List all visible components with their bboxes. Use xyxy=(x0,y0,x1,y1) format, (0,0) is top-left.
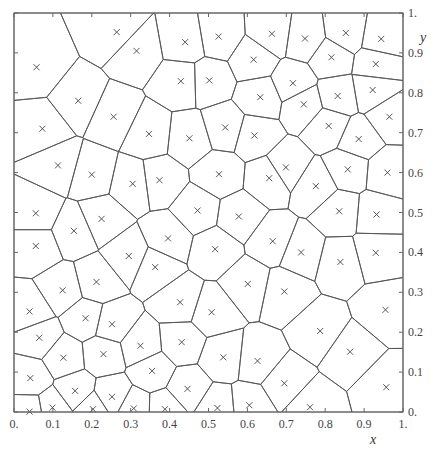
voronoi-cell xyxy=(243,155,291,210)
voronoi-cell xyxy=(39,384,73,412)
y-tick-label: 1. xyxy=(408,6,417,20)
seed-marker-icon xyxy=(162,406,168,412)
seed-marker-icon xyxy=(146,131,152,137)
voronoi-cell xyxy=(217,189,270,245)
seed-marker-icon xyxy=(347,349,353,355)
voronoi-cell xyxy=(238,322,290,385)
voronoi-cell xyxy=(61,13,154,69)
seed-marker-icon xyxy=(34,64,40,70)
voronoi-cell xyxy=(200,99,244,152)
voronoi-cell xyxy=(317,74,359,116)
x-tick-label: 0.9 xyxy=(357,417,372,431)
seed-marker-icon xyxy=(255,358,261,364)
voronoi-cell xyxy=(320,148,368,193)
voronoi-cell xyxy=(279,84,323,136)
seed-marker-icon xyxy=(72,388,78,394)
seed-marker-icon xyxy=(317,328,323,334)
seed-marker-icon xyxy=(251,132,257,138)
y-tick-label: 0. xyxy=(408,405,417,419)
seed-marker-icon xyxy=(251,57,257,63)
y-tick-label: 0.4 xyxy=(408,245,423,259)
seed-marker-icon xyxy=(93,279,99,285)
seed-marker-icon xyxy=(156,177,162,183)
voronoi-cell xyxy=(234,114,288,162)
voronoi-cell xyxy=(259,266,321,330)
y-tick-label: 0.3 xyxy=(408,285,423,299)
seed-marker-icon xyxy=(269,31,275,37)
voronoi-cell xyxy=(231,76,281,120)
seed-marker-icon xyxy=(149,368,155,374)
voronoi-cell xyxy=(244,13,292,59)
seed-marker-icon xyxy=(99,216,105,222)
seed-marker-icon xyxy=(245,281,251,287)
voronoi-cell xyxy=(187,225,245,281)
seed-marker-icon xyxy=(75,98,81,104)
seed-marker-icon xyxy=(283,164,289,170)
voronoi-cell xyxy=(74,251,131,304)
voronoi-cell xyxy=(166,364,213,412)
seed-marker-icon xyxy=(313,183,319,189)
seed-marker-icon xyxy=(184,386,190,392)
voronoi-cell xyxy=(77,194,137,250)
seed-marker-icon xyxy=(109,321,115,327)
voronoi-cell xyxy=(143,270,205,323)
voronoi-cell xyxy=(47,56,110,137)
voronoi-cell xyxy=(216,254,270,323)
y-tick-label: 0.8 xyxy=(408,86,423,100)
voronoi-cell xyxy=(347,278,403,349)
voronoi-cell xyxy=(14,353,54,395)
voronoi-cell xyxy=(194,382,234,412)
seed-marker-icon xyxy=(33,243,39,249)
voronoi-cell xyxy=(281,294,352,367)
seed-marker-icon xyxy=(100,351,106,357)
voronoi-cells xyxy=(14,13,403,412)
seed-marker-icon xyxy=(281,380,287,386)
x-axis-label: x xyxy=(369,432,377,447)
seed-marker-icon xyxy=(270,238,276,244)
seed-marker-icon xyxy=(206,77,212,83)
x-tick-label: 0. xyxy=(10,417,19,431)
seed-marker-icon xyxy=(212,246,218,252)
voronoi-cell xyxy=(362,13,404,57)
seed-marker-icon xyxy=(345,166,351,172)
seed-marker-icon xyxy=(89,172,95,178)
seed-marker-icon xyxy=(281,289,287,295)
voronoi-cell xyxy=(197,328,243,384)
seed-marker-icon xyxy=(222,125,228,131)
x-tick-label: 0.5 xyxy=(201,417,216,431)
voronoi-cell xyxy=(94,372,132,412)
seed-marker-icon xyxy=(33,210,39,216)
seed-marker-icon xyxy=(214,405,220,411)
voronoi-cell xyxy=(14,230,63,279)
seed-marker-icon xyxy=(370,87,376,93)
plot-frame xyxy=(14,13,403,412)
seed-marker-icon xyxy=(71,228,77,234)
y-tick-label: 0.7 xyxy=(408,126,423,140)
seed-marker-icon xyxy=(60,287,66,293)
voronoi-cell xyxy=(198,13,246,61)
voronoi-cell xyxy=(14,277,56,332)
seed-marker-icon xyxy=(356,136,362,142)
x-axis-ticks: 0.0.10.20.30.40.50.60.70.80.91. xyxy=(10,13,408,431)
seed-marker-icon xyxy=(216,171,222,177)
seed-marker-icon xyxy=(114,29,120,35)
seed-marker-icon xyxy=(378,36,384,42)
voronoi-cell xyxy=(195,57,237,110)
seed-marker-icon xyxy=(27,308,33,314)
voronoi-cell xyxy=(109,152,150,220)
seed-marker-icon xyxy=(177,299,183,305)
voronoi-cell xyxy=(119,96,172,160)
x-tick-label: 0.8 xyxy=(318,417,333,431)
x-tick-label: 0.7 xyxy=(279,417,294,431)
seed-marker-icon xyxy=(134,48,140,54)
seed-marker-icon xyxy=(382,307,388,313)
seed-marker-icon xyxy=(298,249,304,255)
seed-marker-icon xyxy=(195,208,201,214)
voronoi-cell xyxy=(130,247,189,303)
seed-marker-icon xyxy=(384,170,390,176)
seed-marker-icon xyxy=(343,30,349,36)
voronoi-cell xyxy=(353,233,403,284)
voronoi-cell xyxy=(96,293,146,342)
voronoi-cell xyxy=(149,388,188,412)
seed-marker-icon xyxy=(83,315,89,321)
